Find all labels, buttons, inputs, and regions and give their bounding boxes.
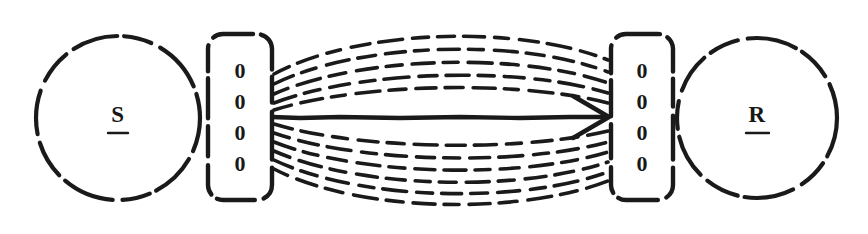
upper-connection-arc-1 (274, 36, 608, 74)
response-node[interactable]: R (677, 38, 837, 198)
main-connection-arrow (272, 96, 609, 138)
input-register[interactable]: 0 0 0 0 (208, 34, 272, 200)
stimulus-node[interactable]: S (36, 36, 200, 200)
diagram-canvas: S 0 0 0 0 (0, 0, 868, 234)
upper-connection-arc-3 (274, 62, 608, 94)
upper-connection-bundle (274, 36, 608, 110)
lower-connection-arc-3 (274, 142, 608, 170)
input-register-digit-1: 0 (235, 89, 246, 114)
input-register-digit-2: 0 (235, 120, 246, 145)
lower-connection-arc-1 (274, 124, 608, 145)
upper-connection-arc-5 (274, 88, 608, 110)
output-register-digit-1: 0 (637, 89, 648, 114)
lower-connection-arc-4 (274, 151, 608, 182)
stimulus-label: S (111, 102, 124, 127)
lower-connection-bundle (274, 124, 608, 204)
main-arrow-shaft (272, 117, 606, 118)
input-register-digit-0: 0 (235, 58, 246, 83)
upper-connection-arc-2 (274, 49, 608, 84)
output-register[interactable]: 0 0 0 0 (611, 34, 673, 200)
lower-connection-arc-2 (274, 133, 608, 158)
sr-diagram-svg: S 0 0 0 0 (0, 0, 868, 234)
output-register-digit-2: 0 (637, 120, 648, 145)
output-register-digit-3: 0 (637, 151, 648, 176)
response-label: R (748, 102, 765, 127)
output-register-digit-0: 0 (637, 58, 648, 83)
input-register-digit-3: 0 (235, 151, 246, 176)
